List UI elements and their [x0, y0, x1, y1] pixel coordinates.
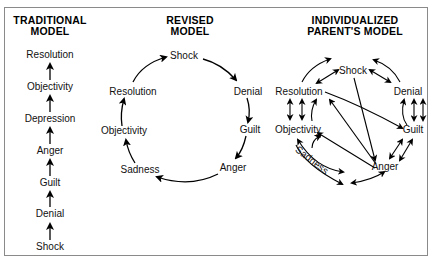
individualized-stage-anger: Anger	[372, 161, 399, 172]
traditional-stage-objectivity: Objectivity	[27, 81, 73, 92]
revised-stage-shock: Shock	[170, 50, 198, 61]
individualized-stage-objectivity: Objectivity	[275, 124, 321, 135]
revised-stage-sadness: Sadness	[121, 164, 160, 175]
individualized-stage-shock: Shock	[339, 65, 367, 76]
traditional-stage-denial: Denial	[36, 208, 64, 219]
traditional-stage-shock: Shock	[36, 241, 64, 252]
traditional-stage-anger: Anger	[37, 145, 64, 156]
individualized-stage-guilt: Guilt	[403, 124, 424, 135]
revised-stage-anger: Anger	[220, 162, 247, 173]
arrows-layer	[0, 0, 434, 264]
traditional-stage-guilt: Guilt	[40, 177, 61, 188]
traditional-stage-resolution: Resolution	[26, 49, 73, 60]
revised-stage-resolution: Resolution	[109, 86, 156, 97]
individualized-stage-resolution: Resolution	[275, 86, 322, 97]
revised-stage-objectivity: Objectivity	[101, 125, 147, 136]
revised-stage-guilt: Guilt	[240, 124, 261, 135]
revised-stage-denial: Denial	[234, 86, 262, 97]
individualized-stage-denial: Denial	[394, 86, 422, 97]
traditional-stage-depression: Depression	[25, 113, 76, 124]
